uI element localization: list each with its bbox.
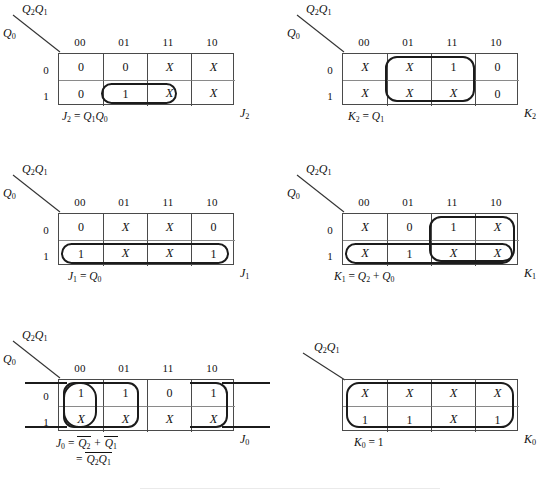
kmap-j1-col-header-0: 00 bbox=[58, 196, 102, 208]
kmap-j2-row-header-1: 1 bbox=[38, 90, 54, 102]
kmap-j2-col-header-3: 10 bbox=[190, 36, 234, 48]
kmap-j1-col-header-1: 01 bbox=[102, 196, 146, 208]
kmap-j0-wrap-rail-bottom-right bbox=[222, 426, 270, 428]
kmap-j2-diagonal-line bbox=[12, 14, 64, 54]
kmap-j2-cell-0-2: X bbox=[147, 54, 191, 80]
kmap-j1-col-header-3: 10 bbox=[190, 196, 234, 208]
kmap-k2-cell-1-0: X bbox=[343, 80, 387, 106]
kmap-k2-cell-1-3: 0 bbox=[475, 80, 519, 106]
kmap-k2-cell-0-3: 0 bbox=[475, 54, 519, 80]
kmap-k2-row-header-1: 1 bbox=[322, 90, 338, 102]
kmap-k0-label: K0 bbox=[524, 432, 536, 447]
kmap-k2-label: K2 bbox=[524, 106, 536, 121]
kmap-k1-equation-0: K1 = Q2 + Q0 bbox=[334, 270, 395, 284]
kmap-j2-cell-0-3: X bbox=[191, 54, 235, 80]
kmap-k1-cell-0-2: 1 bbox=[431, 214, 475, 240]
kmap-j1-row-header-0: 0 bbox=[38, 224, 54, 236]
kmap-k1-cell-1-3: X bbox=[475, 240, 519, 266]
kmap-k0-cell-1-2: X bbox=[431, 406, 475, 432]
kmap-j0-cell-1-2: X bbox=[147, 406, 191, 432]
kmap-k1-col-header-0: 00 bbox=[342, 196, 386, 208]
kmap-j1-cell-1-2: X bbox=[147, 240, 191, 266]
kmap-k0-cell-0-2: X bbox=[431, 380, 475, 406]
kmap-k2-cell-0-0: X bbox=[343, 54, 387, 80]
kmap-k0-cell-0-1: X bbox=[387, 380, 431, 406]
kmap-j0-label: J0 bbox=[240, 432, 249, 447]
kmap-k2-row-header-0: 0 bbox=[322, 64, 338, 76]
kmap-j0-col-header-2: 11 bbox=[146, 362, 190, 374]
kmap-k2-col-header-3: 10 bbox=[474, 36, 518, 48]
kmap-j1-diagonal-line bbox=[12, 174, 64, 214]
kmap-j2-equation-0: J2 = Q1Q0 bbox=[62, 110, 108, 124]
kmap-j1-cell-1-1: X bbox=[103, 240, 147, 266]
kmap-j2-col-header-0: 00 bbox=[58, 36, 102, 48]
kmap-j2-cell-0-0: 0 bbox=[59, 54, 103, 80]
kmap-j2-cell-1-1: 1 bbox=[103, 80, 147, 106]
kmap-j2-grid: 0 0 X X 0 1 X X bbox=[58, 53, 234, 105]
kmap-j0-col-header-1: 01 bbox=[102, 362, 146, 374]
kmap-k0-cell-1-3: 1 bbox=[475, 406, 519, 432]
kmap-j1-cell-0-1: X bbox=[103, 214, 147, 240]
kmap-k1-row-header-1: 1 bbox=[322, 250, 338, 262]
kmap-k0-cell-0-0: X bbox=[343, 380, 387, 406]
kmap-j2-cell-1-2: X bbox=[147, 80, 191, 106]
kmap-j0-cell-0-1: 1 bbox=[103, 380, 147, 406]
kmap-k1-label: K1 bbox=[524, 266, 536, 281]
kmap-j2-label: J2 bbox=[240, 106, 249, 121]
kmap-k0-diagonal-line bbox=[302, 352, 348, 382]
kmap-k1-col-header-1: 01 bbox=[386, 196, 430, 208]
kmap-k2-cell-1-2: X bbox=[431, 80, 475, 106]
kmap-k0-cell-0-3: X bbox=[475, 380, 519, 406]
kmap-j0-left-var: Q0 bbox=[3, 352, 16, 367]
kmap-j0-cell-1-0: X bbox=[59, 406, 103, 432]
kmap-k1-col-header-2: 11 bbox=[430, 196, 474, 208]
kmap-j0-cell-1-1: X bbox=[103, 406, 147, 432]
kmap-j1-equation-0: J1 = Q0 bbox=[68, 270, 101, 284]
kmap-j0-col-header-0: 00 bbox=[58, 362, 102, 374]
kmap-j0-col-header-3: 10 bbox=[190, 362, 234, 374]
kmap-j0-wrap-rail-bottom-left bbox=[25, 426, 67, 428]
kmap-j2-cell-0-1: 0 bbox=[103, 54, 147, 80]
kmap-k1-left-var: Q0 bbox=[287, 186, 300, 201]
kmap-j1-label: J1 bbox=[240, 266, 249, 281]
kmap-j1-cell-1-0: 1 bbox=[59, 240, 103, 266]
kmap-k2-col-header-0: 00 bbox=[342, 36, 386, 48]
kmap-j2-col-header-1: 01 bbox=[102, 36, 146, 48]
kmap-k1-cell-0-0: X bbox=[343, 214, 387, 240]
kmap-k1-cell-1-0: X bbox=[343, 240, 387, 266]
kmap-j1-cell-0-2: X bbox=[147, 214, 191, 240]
kmap-j0-row-header-0: 0 bbox=[38, 390, 54, 402]
kmap-k0-equation-0: K0 = 1 bbox=[354, 436, 384, 450]
kmap-k2-diagonal-line bbox=[296, 14, 348, 54]
kmap-j0-equation-1: = Q2Q1 bbox=[76, 452, 112, 467]
kmap-k2-cell-0-1: X bbox=[387, 54, 431, 80]
kmap-k1-cell-1-1: 1 bbox=[387, 240, 431, 266]
kmap-j2-cell-1-3: X bbox=[191, 80, 235, 106]
kmap-k2-grid: X X 1 0 X X X 0 bbox=[342, 53, 518, 105]
kmap-j2-row-header-0: 0 bbox=[38, 64, 54, 76]
kmap-k1-cell-0-1: 0 bbox=[387, 214, 431, 240]
kmap-k2-left-var: Q0 bbox=[287, 26, 300, 41]
kmap-k1-grid: X 0 1 X X 1 X X bbox=[342, 213, 518, 265]
kmap-j1-row-header-1: 1 bbox=[38, 250, 54, 262]
kmap-k2-cell-1-1: X bbox=[387, 80, 431, 106]
kmap-k0-grid: X X X X 1 1 X 1 bbox=[342, 379, 518, 431]
kmap-k2-col-header-2: 11 bbox=[430, 36, 474, 48]
kmap-j0-cell-0-2: 0 bbox=[147, 380, 191, 406]
kmap-j1-cell-1-3: 1 bbox=[191, 240, 235, 266]
kmap-j1-cell-0-0: 0 bbox=[59, 214, 103, 240]
kmap-j2-cell-1-0: 0 bbox=[59, 80, 103, 106]
kmap-j2-left-var: Q0 bbox=[3, 26, 16, 41]
kmap-j0-equation-0: J0 = Q2 + Q1 bbox=[56, 436, 118, 451]
kmap-k2-col-header-1: 01 bbox=[386, 36, 430, 48]
kmap-k0-cell-1-1: 1 bbox=[387, 406, 431, 432]
kmap-k1-row-header-0: 0 bbox=[322, 224, 338, 236]
kmap-j1-grid: 0 X X 0 1 X X 1 bbox=[58, 213, 234, 265]
kmap-j0-wrap-rail-top-left bbox=[25, 382, 67, 384]
kmap-k2-equation-0: K2 = Q1 bbox=[348, 110, 384, 124]
kmap-k1-diagonal-line bbox=[296, 174, 348, 214]
kmap-k1-cell-1-2: X bbox=[431, 240, 475, 266]
kmap-k0-cell-1-0: 1 bbox=[343, 406, 387, 432]
kmap-figure-sheet: Q2Q1 Q0 00 01 11 10 0 1 0 0 X X 0 1 X X … bbox=[0, 0, 558, 498]
kmap-k1-col-header-3: 10 bbox=[474, 196, 518, 208]
